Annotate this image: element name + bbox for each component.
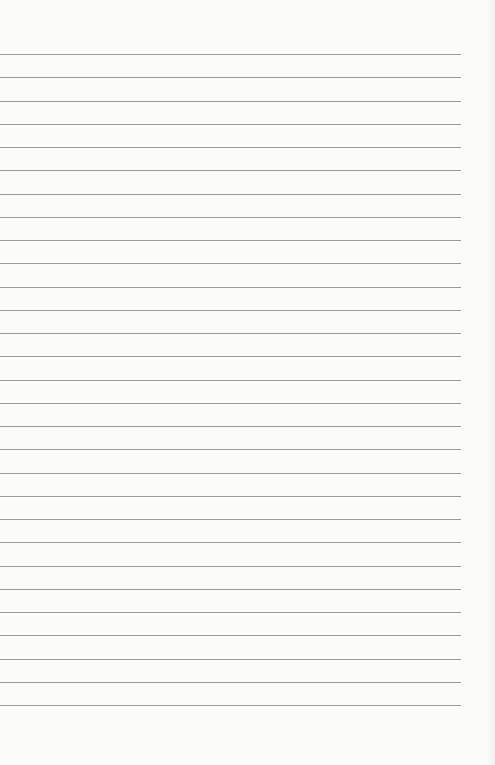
ruled-line	[0, 380, 461, 381]
ruled-line	[0, 77, 461, 78]
ruled-line	[0, 542, 461, 543]
ruled-line	[0, 217, 461, 218]
ruled-line	[0, 496, 461, 497]
ruled-lines	[0, 0, 495, 765]
ruled-line	[0, 170, 461, 171]
ruled-line	[0, 473, 461, 474]
ruled-line	[0, 147, 461, 148]
ruled-line	[0, 519, 461, 520]
ruled-line	[0, 101, 461, 102]
ruled-line	[0, 612, 461, 613]
ruled-line	[0, 635, 461, 636]
ruled-line	[0, 333, 461, 334]
ruled-line	[0, 240, 461, 241]
ruled-line	[0, 589, 461, 590]
ruled-line	[0, 449, 461, 450]
ruled-line	[0, 356, 461, 357]
ruled-line	[0, 705, 461, 706]
ruled-line	[0, 54, 461, 55]
ruled-line	[0, 287, 461, 288]
ruled-line	[0, 194, 461, 195]
ruled-line	[0, 124, 461, 125]
ruled-line	[0, 310, 461, 311]
ruled-line	[0, 263, 461, 264]
ruled-line	[0, 566, 461, 567]
ruled-line	[0, 659, 461, 660]
ruled-line	[0, 403, 461, 404]
lined-paper-page	[0, 0, 495, 765]
ruled-line	[0, 682, 461, 683]
ruled-line	[0, 426, 461, 427]
